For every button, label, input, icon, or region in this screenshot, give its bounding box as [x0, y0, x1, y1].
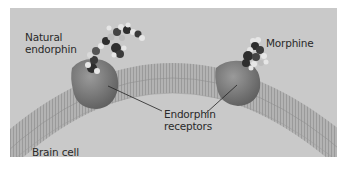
- receptors-label-line1: Endorphin: [164, 108, 216, 120]
- natural-label-line2: endorphin: [25, 43, 77, 55]
- morphine-molecule: [242, 37, 269, 71]
- receptors-label-line2: receptors: [164, 120, 216, 132]
- morphine-label: Morphine: [266, 37, 314, 49]
- natural-label-line1: Natural: [25, 31, 77, 43]
- endorphin-receptors-label: Endorphin receptors: [164, 108, 216, 132]
- diagram-panel: Natural endorphin: [10, 8, 337, 157]
- brain-cell-label: Brain cell: [32, 146, 79, 158]
- natural-endorphin-label: Natural endorphin: [25, 31, 77, 55]
